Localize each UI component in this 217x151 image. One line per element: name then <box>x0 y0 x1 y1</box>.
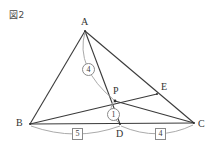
point-label-d: D <box>116 129 123 139</box>
ratio-mark-bd: 5 <box>72 128 83 140</box>
point-label-c: C <box>198 119 205 129</box>
segment-bc <box>30 123 194 124</box>
vertex-dot-c <box>193 122 195 124</box>
point-label-b: B <box>16 118 23 128</box>
ratio-mark-ap: 4 <box>82 63 95 76</box>
segment-be <box>30 94 157 124</box>
point-label-p: P <box>113 86 119 96</box>
vertex-dot-e <box>156 93 158 95</box>
vertex-dot-d <box>119 123 121 125</box>
ratio-mark-dc: 4 <box>155 128 166 140</box>
segment-ac <box>85 31 194 123</box>
figure-container: 図2 <box>0 0 217 151</box>
vertex-dot-b <box>29 123 31 125</box>
segment-pc <box>115 101 194 123</box>
segment-ab <box>30 31 85 124</box>
vertex-dot-p <box>114 100 117 103</box>
point-label-e: E <box>161 82 167 92</box>
point-label-a: A <box>81 17 88 27</box>
geometry-drawing <box>0 0 217 151</box>
vertex-dot-a <box>84 30 86 32</box>
ratio-mark-pd: 1 <box>107 108 120 121</box>
